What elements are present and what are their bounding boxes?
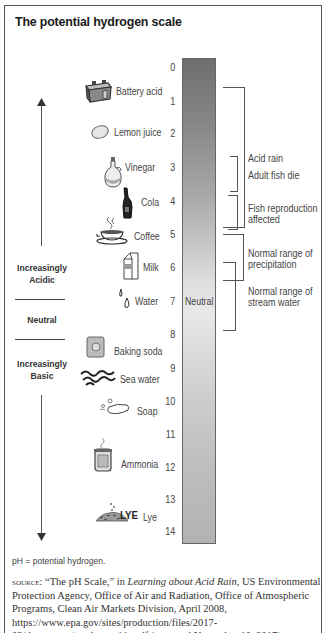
battery-icon bbox=[83, 79, 113, 103]
tick-7: 7 bbox=[161, 296, 175, 307]
tick-4: 4 bbox=[161, 196, 175, 207]
tick-9: 9 bbox=[161, 363, 175, 374]
label-increasingly-acidic: Increasingly Acidic bbox=[15, 262, 69, 286]
note-precip-line2: precipitation bbox=[248, 259, 297, 270]
note-precip-line1: Normal range of bbox=[248, 248, 313, 259]
water-drops-icon bbox=[118, 288, 130, 310]
label-sea-water: Sea water bbox=[120, 374, 160, 385]
label-water: Water bbox=[135, 296, 158, 307]
coffee-cup-icon bbox=[95, 215, 129, 245]
label-ammonia: Ammonia bbox=[121, 459, 158, 470]
tick-14: 14 bbox=[161, 526, 175, 537]
label-soap: Soap bbox=[137, 406, 158, 417]
divider-bottom bbox=[15, 339, 65, 340]
label-lemon-juice: Lemon juice bbox=[114, 127, 161, 138]
tick-12: 12 bbox=[161, 462, 175, 473]
tick-10: 10 bbox=[161, 396, 175, 407]
source-citation: source: “The pH Scale,” in Learning abou… bbox=[12, 575, 322, 633]
baking-soda-box-icon bbox=[86, 336, 106, 358]
label-baking-soda: Baking soda bbox=[114, 346, 162, 357]
note-stream-line1: Normal range of bbox=[248, 286, 313, 297]
footnote: pH = potential hydrogen. bbox=[12, 555, 105, 566]
lemon-icon bbox=[90, 124, 110, 140]
arrow-down-icon bbox=[37, 533, 46, 541]
label-coffee: Coffee bbox=[134, 231, 160, 242]
bracket-stream-water bbox=[223, 262, 236, 331]
label-milk: Milk bbox=[143, 262, 159, 273]
note-adult-fish-die: Adult fish die bbox=[248, 170, 300, 181]
tick-8: 8 bbox=[161, 329, 175, 340]
acidic-arrow-line bbox=[41, 103, 42, 246]
tick-1: 1 bbox=[161, 96, 175, 107]
tick-11: 11 bbox=[161, 429, 175, 440]
note-fish-repro-line1: Fish reproduction bbox=[248, 203, 318, 214]
lye-box-text: LYE bbox=[120, 509, 138, 521]
bracket-fish-reproduction bbox=[228, 195, 238, 230]
tick-5: 5 bbox=[161, 229, 175, 240]
figure-title: The potential hydrogen scale bbox=[15, 14, 182, 29]
label-lye: Lye bbox=[143, 512, 157, 523]
tick-3: 3 bbox=[161, 162, 175, 173]
bracket-adult-fish-die bbox=[230, 156, 238, 192]
ammonia-jar-icon bbox=[93, 437, 113, 473]
milk-carton-icon bbox=[121, 251, 141, 281]
label-cola: Cola bbox=[141, 197, 159, 208]
sea-waves-icon bbox=[80, 369, 116, 387]
bar-neutral-label: Neutral bbox=[185, 296, 213, 307]
label-increasingly-basic: Increasingly Basic bbox=[15, 358, 69, 382]
tick-13: 13 bbox=[161, 494, 175, 505]
label-battery-acid: Battery acid bbox=[116, 86, 162, 97]
vinegar-bottle-icon bbox=[102, 156, 124, 188]
tick-0: 0 bbox=[161, 62, 175, 73]
label-neutral: Neutral bbox=[15, 314, 69, 326]
basic-arrow-line bbox=[41, 395, 42, 535]
note-acid-rain: Acid rain bbox=[248, 153, 283, 164]
tick-6: 6 bbox=[161, 262, 175, 273]
label-vinegar: Vinegar bbox=[125, 162, 155, 173]
note-stream-line2: stream water bbox=[248, 297, 300, 308]
soap-bar-icon bbox=[97, 398, 131, 416]
note-fish-repro-line2: affected bbox=[248, 214, 280, 225]
divider-top bbox=[15, 299, 65, 300]
arrow-up-icon bbox=[37, 98, 46, 106]
tick-2: 2 bbox=[161, 128, 175, 139]
